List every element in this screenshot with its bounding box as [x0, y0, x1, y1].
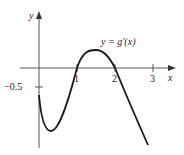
curve-g-prime — [39, 50, 148, 145]
chart: y x 1 2 3 −0.5 y = g′(x) — [0, 0, 184, 155]
y-axis-label: y — [28, 10, 34, 21]
y-axis-arrow-icon — [36, 11, 42, 19]
x-tick-label-3: 3 — [150, 73, 155, 84]
y-tick-label-neg-half: −0.5 — [4, 81, 22, 92]
x-tick-label-2: 2 — [112, 73, 117, 84]
x-axis-arrow-icon — [168, 65, 176, 71]
x-axis-label: x — [167, 72, 173, 83]
curve-label: y = g′(x) — [100, 36, 136, 48]
